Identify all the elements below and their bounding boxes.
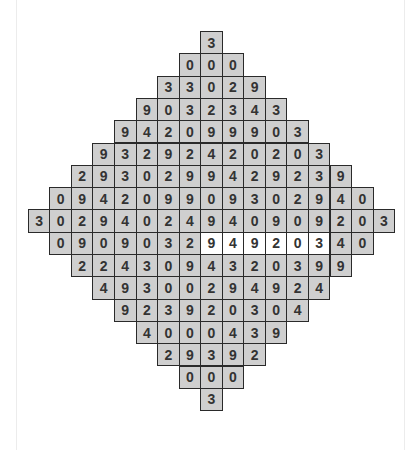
grid-cell[interactable]: 4: [243, 276, 266, 299]
grid-cell[interactable]: 0: [200, 321, 223, 344]
grid-cell[interactable]: 2: [157, 209, 180, 232]
grid-cell[interactable]: 2: [243, 165, 266, 188]
grid-cell[interactable]: 4: [222, 232, 245, 255]
grid-cell[interactable]: 9: [243, 120, 266, 143]
grid-cell[interactable]: 0: [49, 187, 72, 210]
grid-cell[interactable]: 9: [157, 143, 180, 166]
grid-cell[interactable]: 0: [222, 366, 245, 389]
grid-cell[interactable]: 4: [330, 187, 353, 210]
grid-cell[interactable]: 4: [330, 232, 353, 255]
grid-cell[interactable]: 3: [157, 76, 180, 99]
grid-cell[interactable]: 2: [265, 232, 288, 255]
grid-cell[interactable]: 0: [200, 53, 223, 76]
grid-cell[interactable]: 0: [200, 366, 223, 389]
grid-cell[interactable]: 2: [286, 165, 309, 188]
grid-cell[interactable]: 2: [71, 209, 94, 232]
grid-cell[interactable]: 2: [330, 209, 353, 232]
grid-cell[interactable]: 0: [265, 254, 288, 277]
grid-cell[interactable]: 3: [200, 343, 223, 366]
grid-cell[interactable]: 2: [200, 98, 223, 121]
grid-cell[interactable]: 2: [243, 343, 266, 366]
grid-cell[interactable]: 9: [265, 321, 288, 344]
grid-cell[interactable]: 4: [114, 209, 137, 232]
grid-cell[interactable]: 3: [179, 76, 202, 99]
grid-cell[interactable]: 0: [157, 254, 180, 277]
grid-cell[interactable]: 9: [114, 276, 137, 299]
grid-cell[interactable]: 9: [308, 187, 331, 210]
grid-cell[interactable]: 4: [222, 165, 245, 188]
grid-cell[interactable]: 0: [200, 76, 223, 99]
grid-cell[interactable]: 9: [243, 76, 266, 99]
grid-cell[interactable]: 3: [136, 254, 159, 277]
grid-cell[interactable]: 9: [222, 187, 245, 210]
grid-cell[interactable]: 2: [200, 276, 223, 299]
grid-cell[interactable]: 3: [179, 98, 202, 121]
grid-cell[interactable]: 0: [157, 321, 180, 344]
grid-cell[interactable]: 3: [200, 31, 223, 54]
grid-cell[interactable]: 0: [265, 187, 288, 210]
grid-cell[interactable]: 3: [308, 165, 331, 188]
grid-cell[interactable]: 2: [200, 299, 223, 322]
grid-cell[interactable]: 0: [243, 209, 266, 232]
grid-cell[interactable]: 9: [200, 120, 223, 143]
grid-cell[interactable]: 4: [92, 187, 115, 210]
grid-cell[interactable]: 9: [330, 254, 353, 277]
grid-cell[interactable]: 0: [136, 187, 159, 210]
grid-cell[interactable]: 0: [351, 209, 374, 232]
grid-cell[interactable]: 0: [286, 232, 309, 255]
grid-cell[interactable]: 9: [179, 187, 202, 210]
grid-cell[interactable]: 0: [179, 53, 202, 76]
grid-cell[interactable]: 3: [222, 254, 245, 277]
grid-cell[interactable]: 3: [157, 299, 180, 322]
grid-cell[interactable]: 4: [136, 321, 159, 344]
grid-cell[interactable]: 3: [200, 388, 223, 411]
grid-cell[interactable]: 0: [179, 366, 202, 389]
grid-cell[interactable]: 9: [92, 209, 115, 232]
grid-cell[interactable]: 0: [49, 209, 72, 232]
grid-cell[interactable]: 0: [179, 321, 202, 344]
grid-cell[interactable]: 9: [265, 209, 288, 232]
grid-cell[interactable]: 9: [179, 343, 202, 366]
grid-cell[interactable]: 2: [286, 276, 309, 299]
grid-cell[interactable]: 2: [136, 299, 159, 322]
grid-cell[interactable]: 9: [308, 254, 331, 277]
grid-cell[interactable]: 0: [49, 232, 72, 255]
grid-cell[interactable]: 4: [222, 209, 245, 232]
grid-cell[interactable]: 0: [243, 143, 266, 166]
grid-cell[interactable]: 3: [265, 98, 288, 121]
grid-cell[interactable]: 0: [222, 53, 245, 76]
grid-cell[interactable]: 3: [308, 232, 331, 255]
grid-cell[interactable]: 3: [373, 209, 396, 232]
grid-cell[interactable]: 3: [243, 321, 266, 344]
grid-cell[interactable]: 9: [157, 187, 180, 210]
grid-cell[interactable]: 9: [71, 232, 94, 255]
grid-cell[interactable]: 2: [157, 343, 180, 366]
grid-cell[interactable]: 2: [157, 120, 180, 143]
grid-cell[interactable]: 3: [114, 143, 137, 166]
grid-cell[interactable]: 9: [136, 98, 159, 121]
grid-cell[interactable]: 0: [286, 209, 309, 232]
grid-cell[interactable]: 9: [179, 254, 202, 277]
grid-cell[interactable]: 9: [179, 165, 202, 188]
grid-cell[interactable]: 4: [179, 209, 202, 232]
grid-cell[interactable]: 3: [222, 98, 245, 121]
grid-cell[interactable]: 9: [243, 232, 266, 255]
grid-cell[interactable]: 0: [157, 276, 180, 299]
grid-cell[interactable]: 0: [179, 120, 202, 143]
grid-cell[interactable]: 9: [222, 276, 245, 299]
grid-cell[interactable]: 9: [265, 276, 288, 299]
grid-cell[interactable]: 4: [114, 254, 137, 277]
grid-cell[interactable]: 2: [114, 187, 137, 210]
grid-cell[interactable]: 4: [92, 276, 115, 299]
grid-cell[interactable]: 2: [92, 254, 115, 277]
grid-cell[interactable]: 9: [330, 165, 353, 188]
grid-cell[interactable]: 3: [243, 187, 266, 210]
grid-cell[interactable]: 9: [265, 165, 288, 188]
grid-cell[interactable]: 4: [222, 321, 245, 344]
grid-cell[interactable]: 0: [200, 187, 223, 210]
grid-cell[interactable]: 9: [200, 165, 223, 188]
grid-cell[interactable]: 9: [222, 120, 245, 143]
grid-cell[interactable]: 0: [222, 299, 245, 322]
grid-cell[interactable]: 3: [286, 120, 309, 143]
grid-cell[interactable]: 3: [286, 254, 309, 277]
